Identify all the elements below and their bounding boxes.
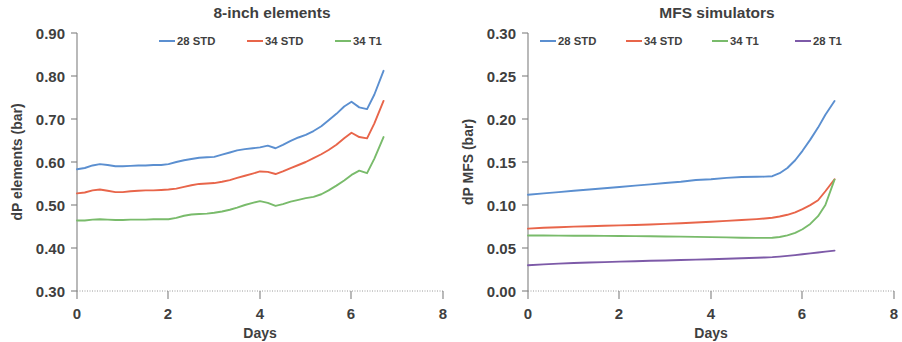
x-tick-label: 4 bbox=[707, 305, 716, 322]
series-line-34-std bbox=[77, 101, 384, 193]
series-line-34-std bbox=[528, 179, 835, 228]
y-ticks-left bbox=[71, 33, 77, 291]
y-tick-label: 0.50 bbox=[36, 197, 65, 214]
x-tick-label: 6 bbox=[798, 305, 806, 322]
x-axis-title-right: Days bbox=[694, 325, 728, 341]
legend-label-28-std: 28 STD bbox=[558, 35, 596, 47]
y-tick-label: 0.00 bbox=[487, 283, 516, 300]
x-tick-label: 4 bbox=[256, 305, 265, 322]
x-tick-label: 2 bbox=[615, 305, 623, 322]
x-tick-label: 6 bbox=[347, 305, 355, 322]
y-tick-label: 0.10 bbox=[487, 197, 516, 214]
series-line-28-std bbox=[77, 71, 384, 169]
chart-title-left: 8-inch elements bbox=[213, 4, 330, 21]
x-tick-label: 8 bbox=[439, 305, 447, 322]
y-tick-label: 0.30 bbox=[36, 283, 65, 300]
series-line-34-t1 bbox=[77, 137, 384, 220]
x-ticks-left bbox=[77, 291, 443, 299]
x-axis-title-left: Days bbox=[243, 325, 277, 341]
y-tick-label: 0.80 bbox=[36, 68, 65, 85]
legend-label-34-std: 34 STD bbox=[265, 35, 303, 47]
y-tick-label: 0.05 bbox=[487, 240, 516, 257]
x-tick-label: 0 bbox=[73, 305, 81, 322]
x-ticks-right bbox=[528, 291, 894, 299]
y-ticks-right bbox=[522, 33, 528, 291]
y-tick-labels-left: 0.90 0.80 0.70 0.60 0.50 0.40 0.30 bbox=[36, 25, 65, 300]
y-tick-label: 0.25 bbox=[487, 68, 516, 85]
legend-left: 28 STD 34 STD 34 T1 bbox=[159, 35, 382, 47]
y-tick-label: 0.15 bbox=[487, 154, 516, 171]
x-tick-label: 2 bbox=[164, 305, 172, 322]
chart-title-right: MFS simulators bbox=[659, 4, 774, 21]
y-tick-label: 0.90 bbox=[36, 25, 65, 42]
y-tick-label: 0.40 bbox=[36, 240, 65, 257]
series-line-28-std bbox=[528, 101, 835, 195]
series-line-34-t1 bbox=[528, 180, 835, 238]
x-tick-labels-right: 0 2 4 6 8 bbox=[524, 305, 898, 322]
y-axis-title-right: dP MFS (bar) bbox=[460, 119, 476, 205]
y-axis-title-left: dP elements (bar) bbox=[9, 103, 25, 220]
legend-label-28-t1: 28 T1 bbox=[813, 35, 842, 47]
legend-right: 28 STD 34 STD 34 T1 28 T1 bbox=[540, 35, 842, 47]
y-tick-label: 0.70 bbox=[36, 111, 65, 128]
x-tick-label: 0 bbox=[524, 305, 532, 322]
data-lines-left bbox=[77, 71, 384, 221]
legend-label-34-t1: 34 T1 bbox=[353, 35, 382, 47]
legend-label-34-t1: 34 T1 bbox=[730, 35, 759, 47]
legend-label-34-std: 34 STD bbox=[644, 35, 682, 47]
y-tick-label: 0.60 bbox=[36, 154, 65, 171]
y-tick-label: 0.20 bbox=[487, 111, 516, 128]
data-lines-right bbox=[528, 101, 835, 265]
chart-panel-left: 8-inch elements 28 STD 34 STD 34 T1 bbox=[0, 0, 451, 342]
x-tick-label: 8 bbox=[890, 305, 898, 322]
x-tick-labels-left: 0 2 4 6 8 bbox=[73, 305, 447, 322]
figure-container: 8-inch elements 28 STD 34 STD 34 T1 bbox=[0, 0, 902, 342]
series-line-28-t1 bbox=[528, 251, 835, 266]
y-tick-label: 0.30 bbox=[487, 25, 516, 42]
y-tick-labels-right: 0.30 0.25 0.20 0.15 0.10 0.05 0.00 bbox=[487, 25, 516, 300]
legend-label-28-std: 28 STD bbox=[177, 35, 215, 47]
chart-panel-right: MFS simulators 28 STD 34 STD 34 T1 28 T1 bbox=[451, 0, 902, 342]
